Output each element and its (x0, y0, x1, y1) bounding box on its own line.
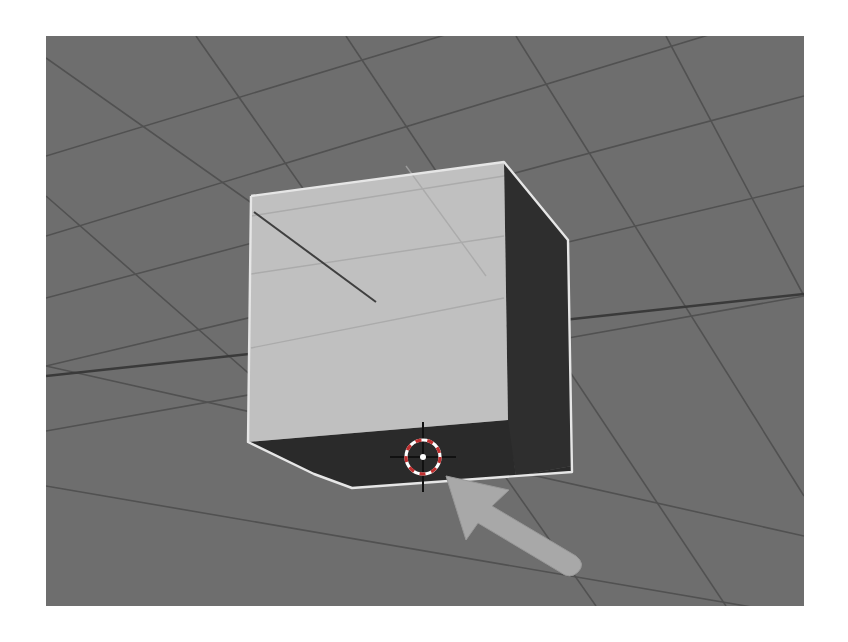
cursor-center-dot (420, 454, 426, 460)
cube-side-face (504, 162, 572, 476)
annotation-arrow (446, 476, 582, 576)
viewport-scene[interactable] (46, 36, 804, 606)
cube-front-face (248, 162, 508, 442)
3d-viewport[interactable]: 3D Viewport Cube 3D Cursor (46, 36, 804, 606)
cube-object[interactable] (248, 162, 572, 488)
